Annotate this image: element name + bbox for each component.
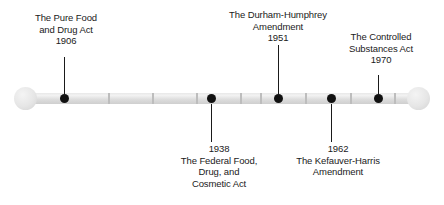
timeline-end-knob [407,87,430,110]
timeline-tick [305,93,307,104]
timeline-event-title: Amendment [296,166,380,178]
timeline-tick [260,93,262,104]
timeline-event-year: 1970 [349,54,413,66]
timeline-event-title: Cosmetic Act [181,178,257,190]
timeline-event-title: Amendment [229,21,327,33]
timeline-event-year: 1906 [35,35,97,47]
timeline-event-title: The Kefauver-Harris [296,155,380,167]
timeline-event-label: The ControlledSubstances Act1970 [349,31,413,66]
timeline-event-dot[interactable] [327,94,336,103]
timeline-tick [394,93,396,104]
timeline-event-title: Drug, and [181,166,257,178]
timeline-event-title: and Drug Act [35,24,97,36]
timeline-start-knob [14,87,37,110]
timeline-event-leader-line [278,45,279,96]
timeline-event-title: Substances Act [349,43,413,55]
timeline-rail [30,93,414,104]
timeline-event-title: The Durham-Humphrey [229,9,327,21]
timeline-figure: The Pure Foodand Drug Act19061938The Fed… [0,0,444,205]
timeline-tick [350,93,352,104]
timeline-event-label: 1962The Kefauver-HarrisAmendment [296,143,380,178]
timeline-tick [108,93,110,104]
timeline-event-year: 1962 [296,143,380,155]
timeline-event-title: The Federal Food, [181,155,257,167]
timeline-event-title: The Pure Food [35,12,97,24]
timeline-event-label: 1938The Federal Food,Drug, andCosmetic A… [181,143,257,189]
timeline-tick [196,93,198,104]
timeline-event-title: The Controlled [349,31,413,43]
timeline-event-year: 1938 [181,143,257,155]
timeline-event-label: The Durham-HumphreyAmendment1951 [229,9,327,44]
timeline-event-leader-line [64,57,65,96]
timeline-event-leader-line [378,75,379,96]
timeline-event-leader-line [331,104,332,142]
timeline-event-label: The Pure Foodand Drug Act1906 [35,12,97,47]
timeline-event-dot[interactable] [207,94,216,103]
timeline-event-year: 1951 [229,32,327,44]
timeline-tick [152,93,154,104]
timeline-tick [240,93,242,104]
timeline-event-leader-line [211,104,212,142]
